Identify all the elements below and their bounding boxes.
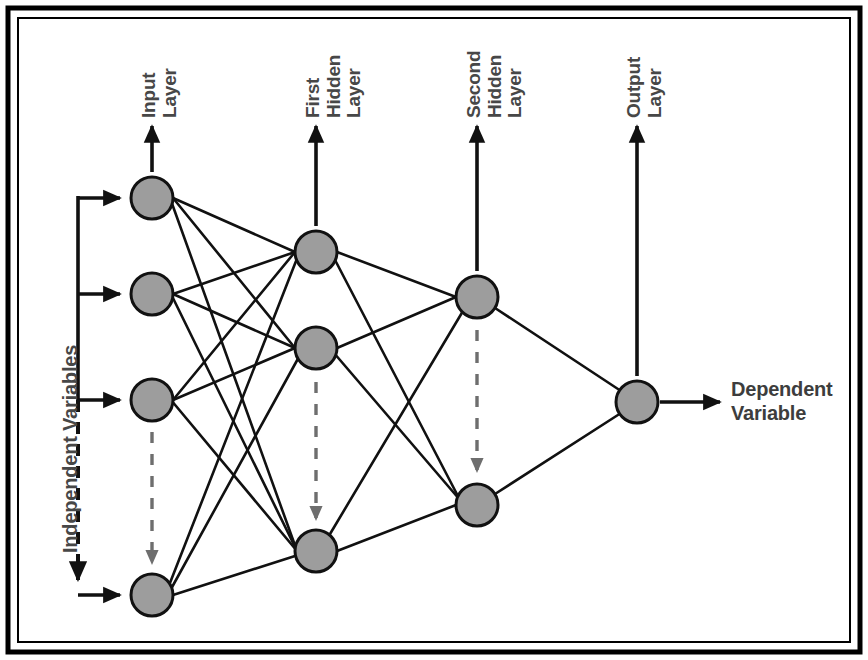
second-hidden-layer-label: Second Hidden Layer: [464, 51, 526, 118]
edge-i4-h2: [171, 355, 300, 589]
node-hidden1-3[interactable]: [295, 530, 337, 572]
edge-h1-g2: [334, 258, 460, 500]
node-hidden2-2[interactable]: [456, 484, 498, 526]
output-layer-nodes: [616, 381, 658, 423]
edges-input-to-hidden1: [168, 198, 300, 595]
node-hidden1-1[interactable]: [295, 231, 337, 273]
edge-h2-g2: [334, 353, 460, 500]
independent-variables-bracket: [78, 196, 120, 595]
edge-h2-g1: [337, 297, 456, 348]
edge-i2-h2: [173, 294, 295, 348]
diagram-canvas: Input Layer First Hidden Layer Second Hi…: [0, 0, 868, 660]
dependent-variable-label: Dependent Variable: [731, 378, 833, 425]
edge-g2-o1: [495, 413, 621, 494]
neural-network-svg: [0, 0, 868, 660]
frame-outer-border: [8, 8, 860, 652]
edges-hidden2-to-output: [495, 308, 621, 494]
edge-h1-g1: [337, 252, 456, 297]
edge-i4-h3: [173, 556, 295, 595]
edge-h3-g1: [330, 311, 463, 534]
node-output-1[interactable]: [616, 381, 658, 423]
node-input-4[interactable]: [131, 574, 173, 616]
edge-i1-h1: [173, 198, 295, 252]
node-input-2[interactable]: [131, 273, 173, 315]
node-hidden2-1[interactable]: [456, 276, 498, 318]
node-hidden1-2[interactable]: [295, 327, 337, 369]
edge-i4-h1: [168, 256, 298, 588]
first-hidden-layer-label: First Hidden Layer: [303, 55, 365, 118]
independent-variables-label: Independent Variables: [60, 345, 82, 553]
input-layer-label: Input Layer: [139, 68, 180, 118]
node-input-3[interactable]: [131, 379, 173, 421]
diagram-frame: [8, 8, 860, 652]
edge-h3-g2: [337, 505, 456, 551]
edge-i3-h2: [173, 348, 295, 400]
edge-g1-o1: [495, 308, 621, 391]
node-input-1[interactable]: [131, 177, 173, 219]
hidden1-layer-nodes: [295, 231, 337, 572]
output-layer-label: Output Layer: [624, 57, 665, 118]
edges-hidden1-to-hidden2: [330, 252, 463, 551]
